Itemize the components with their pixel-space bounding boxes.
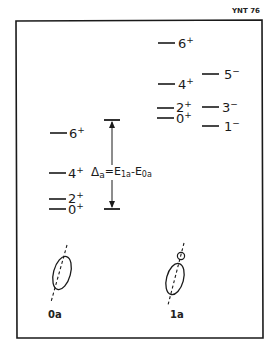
ellipsoid-outline <box>163 261 188 296</box>
arrowhead-down <box>109 201 115 208</box>
energy-gap-equation: Δa=E1a-E0a <box>91 165 152 180</box>
level-label: 4+ <box>68 165 84 181</box>
figure-tag: YNT 76 <box>231 7 260 15</box>
level-label: 4+ <box>178 76 194 92</box>
shape-1a-ellipsoid <box>163 243 188 305</box>
level-label: 5− <box>224 66 240 82</box>
level-label: 1− <box>224 118 240 134</box>
shape-caption-0a: 0a <box>48 309 62 320</box>
level-label: 6+ <box>178 35 194 51</box>
level-label: 0+ <box>176 110 192 126</box>
band-0a: 6+ 4+ 2+ 0+ <box>49 125 85 217</box>
level-label: 3− <box>222 99 238 115</box>
shape-0a-ellipsoid <box>49 245 74 302</box>
ellipsoid-outline <box>49 254 74 291</box>
shape-caption-1a: 1a <box>170 309 184 320</box>
level-scheme-diagram: YNT 76 6+ 4+ 2+ 0+ 5− 3− 1− 6+ 4+ 2+ 0+ <box>0 0 270 347</box>
arrowhead-up <box>109 121 115 128</box>
band-1a-negative: 5− 3− 1− <box>202 66 240 134</box>
level-label: 0+ <box>68 201 84 217</box>
band-1a-positive: 6+ 4+ 2+ 0+ <box>157 35 194 126</box>
level-label: 6+ <box>69 125 85 141</box>
